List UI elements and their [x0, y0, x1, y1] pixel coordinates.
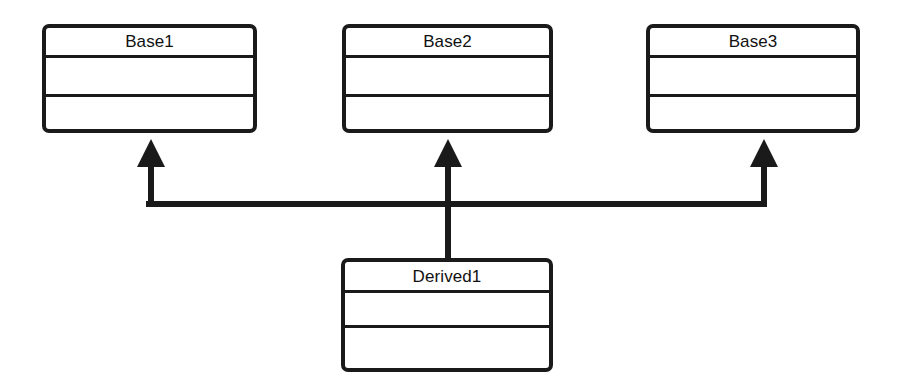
generalization-arrowhead-base1 — [137, 139, 165, 167]
class-name-base2: Base2 — [346, 28, 549, 58]
class-name-derived1: Derived1 — [345, 262, 549, 293]
class-operations-base1 — [46, 97, 253, 129]
class-name-base1: Base1 — [46, 28, 253, 58]
class-operations-derived1 — [345, 328, 549, 368]
class-attributes-base2 — [346, 58, 549, 97]
class-name-base3: Base3 — [650, 28, 856, 58]
class-operations-base2 — [346, 97, 549, 129]
class-operations-base3 — [650, 97, 856, 129]
class-attributes-base3 — [650, 58, 856, 97]
class-box-base3[interactable]: Base3 — [646, 24, 860, 133]
class-box-base1[interactable]: Base1 — [42, 24, 257, 133]
class-box-base2[interactable]: Base2 — [342, 24, 553, 133]
generalization-arrowhead-base3 — [750, 139, 778, 167]
diagram-canvas: Base1 Base2 Base3 Derived1 — [0, 0, 906, 392]
generalization-arrowhead-base2 — [434, 139, 462, 167]
class-attributes-base1 — [46, 58, 253, 97]
class-attributes-derived1 — [345, 293, 549, 328]
class-box-derived1[interactable]: Derived1 — [341, 258, 553, 372]
